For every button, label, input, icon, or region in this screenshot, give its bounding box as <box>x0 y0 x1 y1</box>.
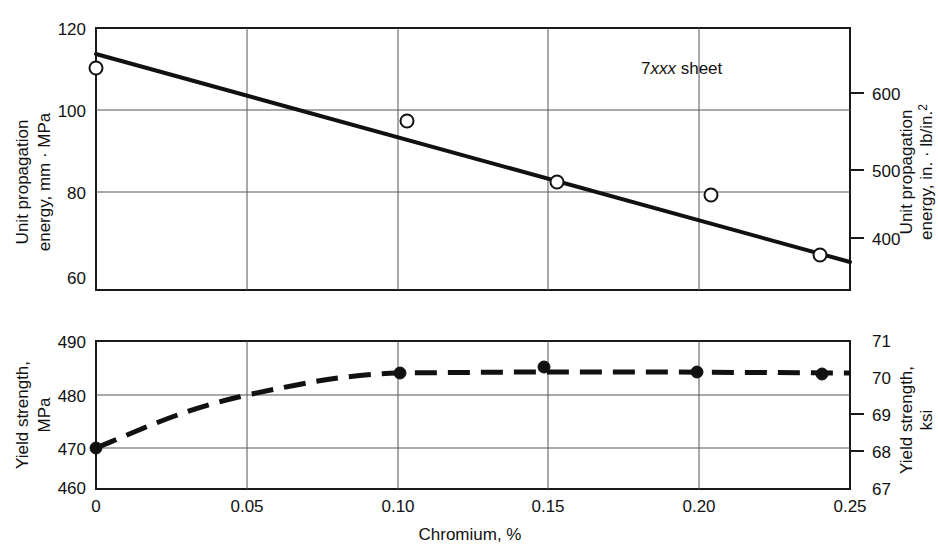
top-right-ytick-label-600: 600 <box>872 85 900 104</box>
bottom-ytick-label-470: 470 <box>58 440 86 459</box>
bottom-right-ytick-label-67: 67 <box>872 480 891 499</box>
xtick-label-020: 0.20 <box>682 497 715 516</box>
xtick-label-0: 0 <box>91 497 100 516</box>
top-ytick-label-60: 60 <box>67 269 86 288</box>
bottom-data-point-1 <box>394 367 406 379</box>
bottom-data-point-0 <box>90 442 102 454</box>
xtick-label-015: 0.15 <box>531 497 564 516</box>
top-right-axis-title-line1: Unit propagation <box>897 110 916 235</box>
annotation-prefix: 7 <box>641 59 650 78</box>
top-right-axis-title-superscript: 2 <box>916 104 930 111</box>
annotation-suffix: sheet <box>676 59 723 78</box>
top-data-point-4 <box>814 249 827 262</box>
bottom-plot-frame <box>96 341 850 489</box>
top-right-axis-title-line2: energy, in. · lb/in.2 <box>916 104 936 240</box>
bottom-trend-curve <box>96 372 850 448</box>
annotation-italic: xxx <box>649 59 676 78</box>
bottom-data-point-2 <box>538 361 550 373</box>
top-data-point-1 <box>401 115 414 128</box>
bottom-panel: 490 480 470 460 71 70 69 68 67 Yield str… <box>13 332 936 544</box>
xtick-label-025: 0.25 <box>833 497 866 516</box>
top-data-point-2 <box>551 176 564 189</box>
top-ytick-label-100: 100 <box>58 102 86 121</box>
top-left-axis-title-line1: Unit propagation <box>13 120 32 245</box>
bottom-data-point-4 <box>816 368 828 380</box>
xtick-label-010: 0.10 <box>381 497 414 516</box>
bottom-right-axis-title-line1: Yield strength, <box>897 366 916 474</box>
figure-container: 120 100 80 60 600 500 400 Unit propagati… <box>0 0 938 549</box>
bottom-left-axis-title-line2: MPa <box>35 397 54 433</box>
bottom-right-axis-title-line2: ksi <box>917 410 936 431</box>
top-trend-line <box>96 54 850 262</box>
bottom-right-ytick-label-70: 70 <box>872 369 891 388</box>
xtick-label-005: 0.05 <box>230 497 263 516</box>
bottom-ytick-label-460: 460 <box>58 479 86 498</box>
bottom-ytick-label-490: 490 <box>58 333 86 352</box>
annotation-7xxx-sheet: 7xxx sheet <box>641 59 723 78</box>
top-ytick-label-120: 120 <box>58 20 86 39</box>
bottom-right-ytick-label-71: 71 <box>872 332 891 351</box>
bottom-right-ytick-label-68: 68 <box>872 443 891 462</box>
top-data-point-0 <box>90 62 103 75</box>
top-right-axis-title-line2-main: energy, in. · lb/in. <box>917 111 936 240</box>
bottom-left-axis-title-line1: Yield strength, <box>13 361 32 469</box>
top-panel: 120 100 80 60 600 500 400 Unit propagati… <box>13 20 936 290</box>
bottom-ytick-label-480: 480 <box>58 387 86 406</box>
top-left-axis-title-line2: energy, mm · MPa <box>35 112 54 251</box>
x-axis-title: Chromium, % <box>419 525 522 544</box>
bottom-data-point-3 <box>691 366 703 378</box>
chart-canvas: 120 100 80 60 600 500 400 Unit propagati… <box>0 0 938 549</box>
bottom-right-ytick-label-69: 69 <box>872 406 891 425</box>
top-ytick-label-80: 80 <box>67 184 86 203</box>
top-data-point-3 <box>705 189 718 202</box>
